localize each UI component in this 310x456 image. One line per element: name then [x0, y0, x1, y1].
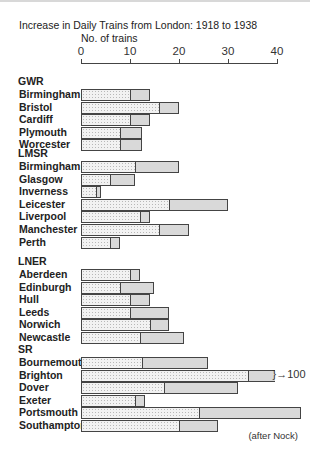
category-label: Manchester	[19, 223, 77, 235]
bar-increase	[142, 357, 208, 369]
bar-increase	[110, 174, 135, 186]
bar-increase	[130, 307, 169, 319]
top-border	[0, 0, 310, 2]
group-label-lmsr: LMSR	[18, 147, 48, 159]
bar-1918	[81, 282, 121, 294]
bar-1918	[81, 294, 131, 306]
tick-mark	[130, 59, 131, 64]
bar-1918	[81, 307, 131, 319]
bar-1918	[81, 407, 200, 419]
bar-1918	[81, 211, 141, 223]
category-label: Liverpool	[19, 210, 66, 222]
tick-mark	[228, 59, 229, 64]
group-label-gwr: GWR	[18, 75, 44, 87]
bar-increase	[179, 420, 218, 432]
bar-1918	[81, 161, 136, 173]
source-note: (after Nock)	[248, 430, 298, 441]
bar-increase	[130, 269, 140, 281]
category-label: Exeter	[19, 394, 51, 406]
bar-increase	[135, 161, 179, 173]
bar-1918	[81, 420, 180, 432]
category-label: Aberdeen	[19, 268, 67, 280]
bar-increase	[130, 114, 150, 126]
tick-label: 20	[164, 45, 194, 57]
bar-increase	[140, 211, 150, 223]
category-label: Hull	[19, 293, 39, 305]
bar-increase	[135, 395, 145, 407]
bar-increase	[159, 102, 179, 114]
bar-1918	[81, 395, 136, 407]
category-label: Perth	[19, 236, 46, 248]
bar-1918	[81, 332, 141, 344]
category-label: Norwich	[19, 318, 60, 330]
category-label: Leeds	[19, 306, 49, 318]
category-label: Dover	[19, 381, 49, 393]
bar-increase	[140, 332, 184, 344]
bar-1918	[81, 224, 160, 236]
tick-label: 10	[115, 45, 145, 57]
tick-label: 0	[66, 45, 96, 57]
bar-increase	[199, 407, 302, 419]
bar-1918	[81, 237, 111, 249]
category-label: Edinburgh	[19, 281, 72, 293]
bar-1918	[81, 139, 121, 151]
bar-1918	[81, 102, 160, 114]
bar-increase	[110, 237, 120, 249]
bar-1918	[81, 382, 165, 394]
bar-increase	[150, 319, 170, 331]
break-value: 100	[287, 368, 305, 380]
axis-break-annotation: }→100	[273, 368, 306, 380]
category-label: Birmingham	[19, 160, 80, 172]
category-label: Brighton	[19, 369, 63, 381]
bar-increase	[130, 294, 150, 306]
chart-title: Increase in Daily Trains from London: 19…	[19, 19, 257, 31]
bar-increase	[159, 224, 188, 236]
tick-label: 30	[213, 45, 243, 57]
break-arrow-icon: }→	[273, 368, 288, 380]
category-label: Leicester	[19, 198, 65, 210]
bar-1918	[81, 174, 111, 186]
group-label-sr: SR	[18, 343, 33, 355]
bar-1918	[81, 114, 131, 126]
bar-increase	[120, 139, 142, 151]
bar-1918	[81, 357, 143, 369]
group-label-lner: LNER	[18, 255, 47, 267]
category-label: Inverness	[19, 185, 68, 197]
bar-increase	[169, 199, 228, 211]
bar-1918	[81, 89, 131, 101]
tick-label: 40	[262, 45, 292, 57]
tick-mark	[179, 59, 180, 64]
category-label: Portsmouth	[19, 406, 78, 418]
bar-increase	[164, 382, 238, 394]
bar-increase	[120, 282, 154, 294]
bar-increase	[120, 127, 142, 139]
category-label: Newcastle	[19, 331, 70, 343]
tick-mark	[81, 59, 82, 64]
bar-increase	[248, 370, 275, 382]
bar-1918	[81, 319, 151, 331]
category-label: Bournemouth	[19, 356, 88, 368]
category-label: Southampton	[19, 419, 87, 431]
category-label: Birmingham	[19, 88, 80, 100]
bar-1918	[81, 199, 170, 211]
category-label: Glasgow	[19, 173, 63, 185]
bar-1918	[81, 370, 249, 382]
category-label: Bristol	[19, 101, 52, 113]
bar-1918	[81, 269, 131, 281]
x-axis-label: No. of trains	[81, 32, 138, 44]
tick-mark	[277, 59, 278, 64]
bar-1918	[81, 186, 97, 198]
category-label: Plymouth	[19, 126, 67, 138]
category-label: Cardiff	[19, 113, 53, 125]
bar-1918	[81, 127, 121, 139]
bar-increase	[130, 89, 150, 101]
